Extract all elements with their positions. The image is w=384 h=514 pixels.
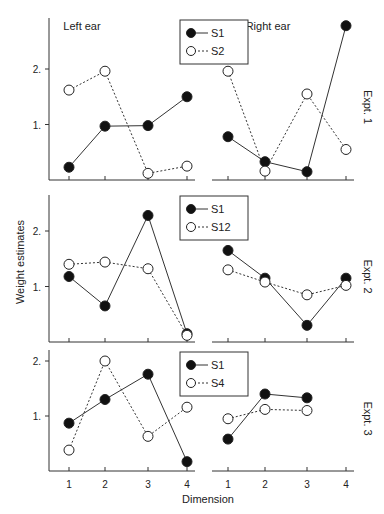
open-marker — [64, 445, 74, 455]
open-marker — [143, 264, 153, 274]
legend-label: S1 — [211, 359, 224, 371]
x-tick-label: 4 — [184, 479, 190, 490]
y-tick-label: 2. — [33, 226, 41, 237]
series-line — [69, 361, 187, 450]
filled-marker — [341, 21, 351, 31]
series-line — [69, 262, 187, 335]
x-tick-label: 4 — [343, 479, 349, 490]
y-tick-label: 2. — [33, 64, 41, 75]
open-marker — [260, 166, 270, 176]
series-line — [228, 270, 346, 295]
x-tick-label: 2 — [102, 479, 108, 490]
open-marker — [302, 89, 312, 99]
filled-marker — [302, 393, 312, 403]
open-marker — [182, 402, 192, 412]
y-tick-label: 2. — [33, 356, 41, 367]
legend-marker-icon — [187, 223, 196, 232]
x-tick-label: 3 — [304, 479, 310, 490]
y-tick-label: 1. — [33, 282, 41, 293]
x-axis-label: Dimension — [182, 493, 234, 505]
open-marker — [260, 404, 270, 414]
legend-marker-icon — [187, 205, 196, 214]
legend-marker-icon — [187, 361, 196, 370]
open-marker — [100, 66, 110, 76]
legend-label: S4 — [211, 377, 224, 389]
legend-marker-icon — [187, 379, 196, 388]
filled-marker — [143, 121, 153, 131]
legend-marker-icon — [187, 47, 196, 56]
filled-marker — [100, 395, 110, 405]
filled-marker — [64, 272, 74, 282]
filled-marker — [100, 301, 110, 311]
filled-marker — [143, 210, 153, 220]
open-marker — [223, 66, 233, 76]
filled-marker — [182, 457, 192, 467]
filled-marker — [223, 245, 233, 255]
filled-marker — [223, 132, 233, 142]
row-label: Expt. 2 — [362, 259, 374, 293]
open-marker — [341, 280, 351, 290]
filled-marker — [182, 92, 192, 102]
column-title-left: Left ear — [63, 20, 101, 32]
series-line — [69, 215, 187, 333]
open-marker — [302, 290, 312, 300]
legend-label: S2 — [211, 45, 224, 57]
y-axis-label: Weight estimates — [14, 219, 26, 304]
series-line — [228, 394, 307, 439]
row-label: Expt. 1 — [362, 90, 374, 124]
open-marker — [302, 406, 312, 416]
open-marker — [64, 259, 74, 269]
x-tick-label: 1 — [225, 479, 231, 490]
open-marker — [341, 144, 351, 154]
x-tick-label: 3 — [145, 479, 151, 490]
y-tick-label: 1. — [33, 411, 41, 422]
open-marker — [260, 277, 270, 287]
x-tick-label: 1 — [66, 479, 72, 490]
filled-marker — [302, 320, 312, 330]
open-marker — [100, 257, 110, 267]
series-line — [69, 71, 187, 173]
x-tick-label: 2 — [262, 479, 268, 490]
series-line — [69, 97, 187, 167]
series-line — [228, 71, 346, 171]
filled-marker — [64, 418, 74, 428]
filled-marker — [260, 389, 270, 399]
legend-marker-icon — [187, 29, 196, 38]
open-marker — [223, 414, 233, 424]
row-label: Expt. 3 — [362, 401, 374, 435]
series-line — [228, 250, 346, 325]
legend-label: S12 — [211, 221, 231, 233]
filled-marker — [260, 157, 270, 167]
filled-marker — [64, 162, 74, 172]
filled-marker — [100, 121, 110, 131]
open-marker — [182, 161, 192, 171]
legend-label: S1 — [211, 27, 224, 39]
filled-marker — [143, 369, 153, 379]
series-line — [69, 374, 187, 461]
legend-label: S1 — [211, 203, 224, 215]
open-marker — [64, 85, 74, 95]
filled-marker — [302, 167, 312, 177]
open-marker — [223, 265, 233, 275]
open-marker — [182, 330, 192, 340]
y-tick-label: 1. — [33, 120, 41, 131]
weight-estimates-chart: Left earRight earWeight estimatesDimensi… — [0, 0, 384, 514]
open-marker — [143, 168, 153, 178]
filled-marker — [223, 434, 233, 444]
open-marker — [100, 356, 110, 366]
column-title-right: Right ear — [246, 20, 291, 32]
open-marker — [143, 431, 153, 441]
